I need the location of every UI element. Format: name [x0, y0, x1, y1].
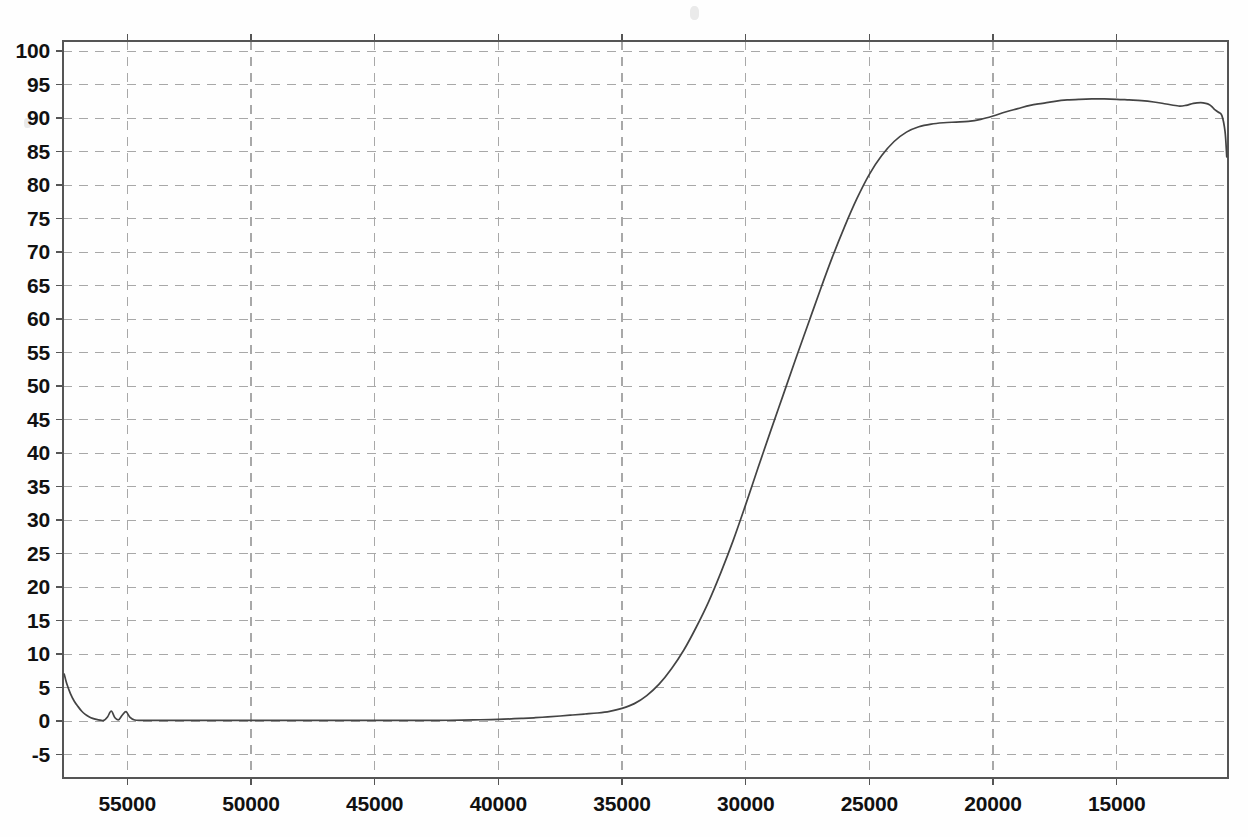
spectrum-chart: 1009590858075706560555045403530252015105… [0, 0, 1248, 837]
axis-ticks [56, 34, 1117, 785]
x-axis-tick-label: 30000 [717, 792, 774, 816]
y-axis-tick-label: 30 [0, 508, 50, 532]
y-axis-tick-label: 55 [0, 341, 50, 365]
x-axis-tick-label: 50000 [222, 792, 279, 816]
x-axis-tick-label: 55000 [99, 792, 156, 816]
y-axis-tick-label: -5 [0, 743, 50, 767]
y-axis-tick-label: 90 [0, 106, 50, 130]
y-axis-tick-label: 35 [0, 475, 50, 499]
y-axis-tick-label: 15 [0, 609, 50, 633]
y-axis-tick-label: 5 [0, 676, 50, 700]
gridlines [63, 41, 1228, 778]
y-axis-tick-label: 60 [0, 307, 50, 331]
y-axis-tick-label: 40 [0, 441, 50, 465]
y-axis-tick-label: 70 [0, 240, 50, 264]
y-axis-tick-label: 75 [0, 207, 50, 231]
x-axis-tick-label: 25000 [841, 792, 898, 816]
y-axis-tick-label: 95 [0, 73, 50, 97]
y-axis-tick-label: 0 [0, 709, 50, 733]
y-axis-tick-label: 80 [0, 173, 50, 197]
y-axis-tick-label: 100 [0, 39, 50, 63]
y-axis-tick-label: 65 [0, 274, 50, 298]
y-axis-tick-label: 25 [0, 542, 50, 566]
x-axis-tick-label: 45000 [346, 792, 403, 816]
plot-area [0, 0, 1248, 837]
x-axis-tick-label: 40000 [470, 792, 527, 816]
x-axis-tick-label: 15000 [1088, 792, 1145, 816]
y-axis-tick-label: 10 [0, 642, 50, 666]
y-axis-tick-label: 20 [0, 575, 50, 599]
y-axis-tick-label: 85 [0, 140, 50, 164]
x-axis-tick-label: 35000 [593, 792, 650, 816]
y-axis-tick-label: 50 [0, 374, 50, 398]
x-axis-tick-label: 20000 [964, 792, 1021, 816]
data-curve [64, 99, 1227, 721]
y-axis-tick-label: 45 [0, 408, 50, 432]
